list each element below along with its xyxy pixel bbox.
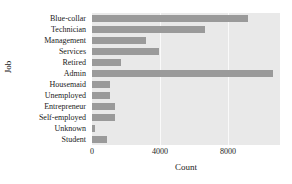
y-tick-label: Unemployed xyxy=(0,91,89,100)
x-tick-label: 8000 xyxy=(220,147,236,156)
y-tick-label: Technician xyxy=(0,25,89,34)
bar xyxy=(92,92,110,99)
y-tick-label: Housemaid xyxy=(0,80,89,89)
bar xyxy=(92,81,110,88)
bar xyxy=(92,136,107,143)
bar xyxy=(92,70,273,77)
bar xyxy=(92,103,115,110)
x-tick-label: 4000 xyxy=(152,147,168,156)
y-tick-label: Unknown xyxy=(0,124,89,133)
bar xyxy=(92,48,159,55)
x-axis-title: Count xyxy=(92,162,280,172)
y-tick-label: Services xyxy=(0,47,89,56)
y-tick-label: Self-employed xyxy=(0,113,89,122)
y-tick-label: Admin xyxy=(0,69,89,78)
bar xyxy=(92,114,115,121)
x-axis-tick-labels: 040008000 xyxy=(92,147,280,159)
bar xyxy=(92,15,248,22)
bar xyxy=(92,59,121,66)
plot-area xyxy=(92,13,280,145)
bar xyxy=(92,37,146,44)
y-tick-label: Retired xyxy=(0,58,89,67)
bar xyxy=(92,125,95,132)
figure: Job Blue-collarTechnicianManagementServi… xyxy=(0,0,292,184)
bar xyxy=(92,26,205,33)
y-tick-label: Blue-collar xyxy=(0,14,89,23)
y-tick-label: Student xyxy=(0,135,89,144)
y-axis-tick-labels: Blue-collarTechnicianManagementServicesR… xyxy=(0,13,89,145)
y-tick-label: Management xyxy=(0,36,89,45)
gridline xyxy=(228,13,229,145)
x-tick-label: 0 xyxy=(90,147,94,156)
y-tick-label: Entrepreneur xyxy=(0,102,89,111)
